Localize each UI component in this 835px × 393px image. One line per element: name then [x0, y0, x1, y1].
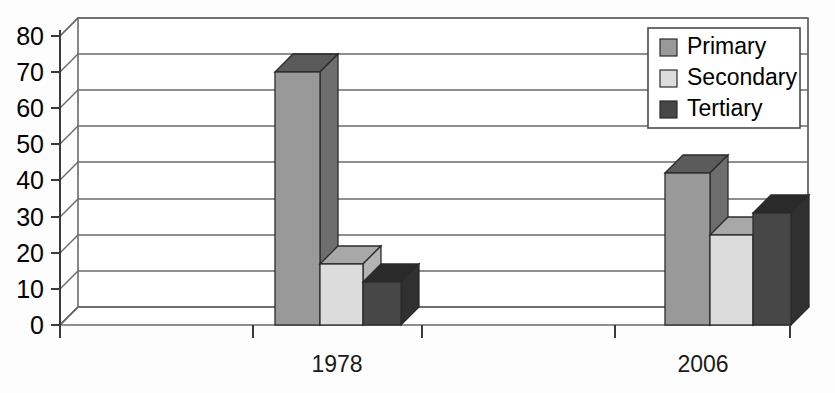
bar-front-face [753, 213, 791, 325]
x-axis [60, 325, 790, 338]
bar-front-face [275, 72, 320, 325]
bar-front-face [320, 264, 363, 325]
x-axis-category-labels: 1978 2006 [311, 351, 728, 377]
legend[interactable]: Primary Secondary Tertiary [648, 28, 800, 128]
primary-swatch-icon [660, 39, 677, 56]
bar-front-face [710, 235, 753, 325]
legend-label-secondary: Secondary [687, 64, 797, 90]
y-tick-label-0: 0 [30, 311, 44, 339]
chart-canvas: 80 70 60 50 40 30 20 10 0 [0, 0, 835, 393]
bar-front-face [363, 282, 401, 325]
y-tick-label-70: 70 [16, 58, 44, 86]
bar-chart: 80 70 60 50 40 30 20 10 0 [0, 0, 835, 393]
tertiary-swatch-icon [660, 101, 677, 118]
y-tick-label-30: 30 [16, 203, 44, 231]
y-tick-label-80: 80 [16, 22, 44, 50]
y-axis [51, 30, 60, 332]
secondary-swatch-icon [660, 70, 677, 87]
y-tick-label-60: 60 [16, 94, 44, 122]
y-tick-label-50: 50 [16, 130, 44, 158]
y-tick-label-20: 20 [16, 239, 44, 267]
y-tick-label-10: 10 [16, 275, 44, 303]
legend-label-primary: Primary [687, 33, 767, 59]
bar-2006-tertiary[interactable] [753, 195, 809, 325]
bar-front-face [665, 173, 710, 325]
x-label-2006: 2006 [677, 351, 728, 377]
bar-1978-tertiary[interactable] [363, 264, 419, 325]
bar-side-face [791, 195, 809, 325]
x-label-1978: 1978 [311, 351, 362, 377]
legend-label-tertiary: Tertiary [687, 95, 763, 121]
y-axis-tick-labels: 80 70 60 50 40 30 20 10 0 [16, 22, 44, 339]
y-tick-label-40: 40 [16, 166, 44, 194]
